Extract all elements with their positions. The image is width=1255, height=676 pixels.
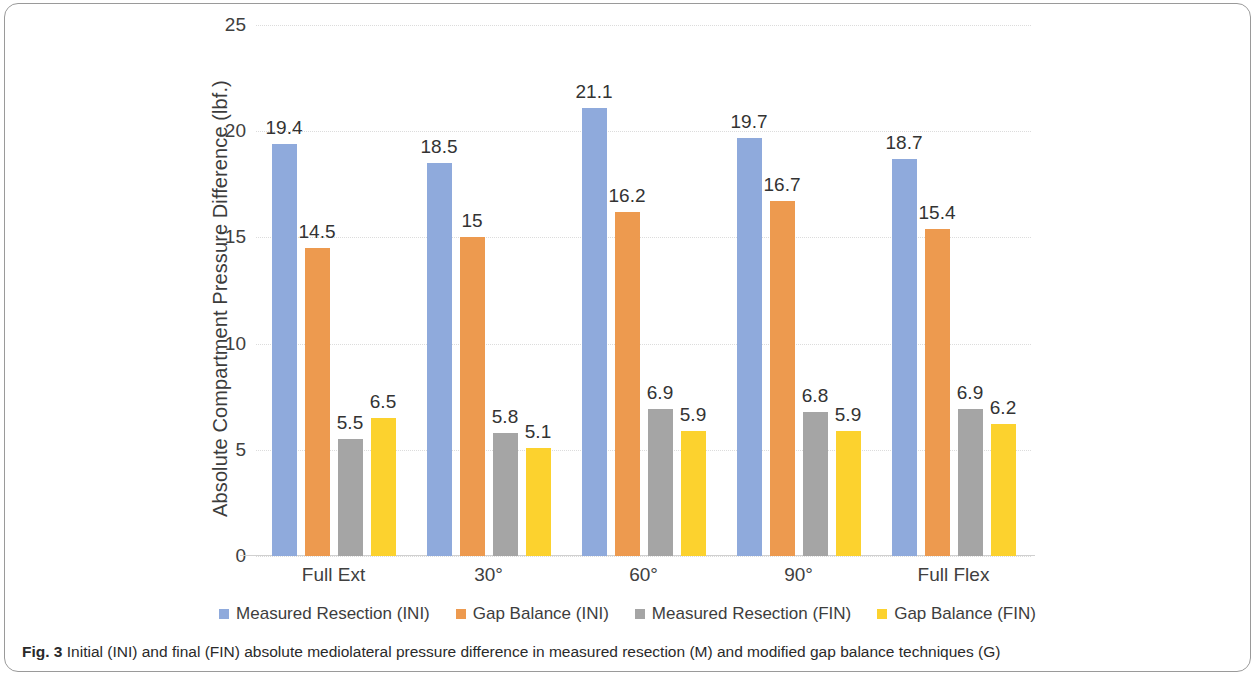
bar-group: 21.116.26.95.9: [566, 25, 721, 556]
y-tick-label: 25: [200, 14, 246, 36]
gridline: [256, 556, 1031, 557]
bar-value-label: 6.8: [802, 386, 828, 405]
bar[interactable]: [338, 439, 363, 556]
bar-item[interactable]: 6.5: [371, 25, 396, 556]
legend-swatch-icon: [635, 609, 645, 619]
bar-value-label: 18.7: [886, 133, 923, 152]
y-tick-label: 15: [200, 226, 246, 248]
bar-value-label: 19.4: [266, 118, 303, 137]
caption-label: Fig. 3: [22, 643, 62, 660]
bar-value-label: 6.9: [957, 383, 983, 402]
x-axis-tick-labels: Full Ext30°60°90°Full Flex: [256, 564, 1031, 586]
bar-item[interactable]: 5.9: [681, 25, 706, 556]
bar-item[interactable]: 18.5: [427, 25, 452, 556]
figure-container: Absolute Compartment Pressure Difference…: [0, 0, 1255, 676]
bar-item[interactable]: 16.2: [615, 25, 640, 556]
bar-value-label: 5.5: [337, 413, 363, 432]
legend-item[interactable]: Gap Balance (INI): [456, 604, 609, 624]
x-tick-label: Full Ext: [256, 564, 411, 586]
bar-groups: 19.414.55.56.518.5155.85.121.116.26.95.9…: [256, 25, 1031, 556]
legend-swatch-icon: [219, 609, 229, 619]
bar-item[interactable]: 21.1: [582, 25, 607, 556]
bar-group: 19.716.76.85.9: [721, 25, 876, 556]
bar-value-label: 6.5: [370, 392, 396, 411]
y-tick-label: 20: [200, 120, 246, 142]
legend-label: Measured Resection (FIN): [652, 604, 851, 624]
bar[interactable]: [737, 138, 762, 556]
bar-value-label: 15.4: [919, 203, 956, 222]
legend-item[interactable]: Measured Resection (INI): [219, 604, 430, 624]
bar[interactable]: [803, 412, 828, 556]
bar-item[interactable]: 18.7: [892, 25, 917, 556]
chart-legend: Measured Resection (INI)Gap Balance (INI…: [0, 604, 1255, 624]
bar[interactable]: [427, 163, 452, 556]
bar-value-label: 5.9: [680, 405, 706, 424]
bar[interactable]: [770, 201, 795, 556]
bar-group: 18.715.46.96.2: [876, 25, 1031, 556]
legend-swatch-icon: [877, 609, 887, 619]
bar[interactable]: [615, 212, 640, 556]
legend-item[interactable]: Gap Balance (FIN): [877, 604, 1036, 624]
bar-item[interactable]: 15.4: [925, 25, 950, 556]
bar[interactable]: [526, 448, 551, 556]
y-axis-tick-labels: 0510152025: [200, 0, 246, 580]
bar-item[interactable]: 19.7: [737, 25, 762, 556]
legend-label: Gap Balance (INI): [473, 604, 609, 624]
bar-chart: Absolute Compartment Pressure Difference…: [0, 0, 1255, 676]
x-tick-label: Full Flex: [876, 564, 1031, 586]
bar-item[interactable]: 5.9: [836, 25, 861, 556]
y-tick-label: 0: [200, 545, 246, 567]
caption-body: Initial (INI) and final (FIN) absolute m…: [67, 643, 1001, 660]
bar-value-label: 16.7: [764, 175, 801, 194]
bar-value-label: 16.2: [609, 186, 646, 205]
legend-label: Gap Balance (FIN): [894, 604, 1036, 624]
legend-item[interactable]: Measured Resection (FIN): [635, 604, 851, 624]
bar-value-label: 19.7: [731, 112, 768, 131]
bar[interactable]: [460, 237, 485, 556]
bar[interactable]: [582, 108, 607, 556]
bar-item[interactable]: 6.2: [991, 25, 1016, 556]
bar-item[interactable]: 6.9: [958, 25, 983, 556]
bar-group: 19.414.55.56.5: [256, 25, 411, 556]
bar[interactable]: [836, 431, 861, 556]
bar-item[interactable]: 5.8: [493, 25, 518, 556]
bar[interactable]: [371, 418, 396, 556]
bar-item[interactable]: 16.7: [770, 25, 795, 556]
bar-value-label: 5.9: [835, 405, 861, 424]
bar-value-label: 15: [461, 211, 482, 230]
bar-item[interactable]: 14.5: [305, 25, 330, 556]
y-tick-label: 5: [200, 439, 246, 461]
bar-item[interactable]: 5.1: [526, 25, 551, 556]
y-tick-label: 10: [200, 333, 246, 355]
bar[interactable]: [958, 409, 983, 556]
bar-value-label: 5.8: [492, 407, 518, 426]
bar[interactable]: [305, 248, 330, 556]
bar-item[interactable]: 5.5: [338, 25, 363, 556]
bar-group: 18.5155.85.1: [411, 25, 566, 556]
bar[interactable]: [991, 424, 1016, 556]
bar-item[interactable]: 6.9: [648, 25, 673, 556]
bar-item[interactable]: 15: [460, 25, 485, 556]
x-tick-label: 60°: [566, 564, 721, 586]
legend-label: Measured Resection (INI): [236, 604, 430, 624]
bar-value-label: 18.5: [421, 137, 458, 156]
bar-value-label: 21.1: [576, 82, 613, 101]
x-tick-label: 30°: [411, 564, 566, 586]
bar-value-label: 6.2: [990, 398, 1016, 417]
bar[interactable]: [925, 229, 950, 556]
bar[interactable]: [892, 159, 917, 556]
bar-item[interactable]: 19.4: [272, 25, 297, 556]
bar-value-label: 14.5: [299, 222, 336, 241]
plot-area: 19.414.55.56.518.5155.85.121.116.26.95.9…: [256, 25, 1031, 556]
bar[interactable]: [681, 431, 706, 556]
x-tick-label: 90°: [721, 564, 876, 586]
bar-value-label: 5.1: [525, 422, 551, 441]
figure-caption: Fig. 3 Initial (INI) and final (FIN) abs…: [22, 643, 1237, 661]
bar[interactable]: [493, 433, 518, 556]
bar-item[interactable]: 6.8: [803, 25, 828, 556]
bar-value-label: 6.9: [647, 383, 673, 402]
bar[interactable]: [272, 144, 297, 556]
legend-swatch-icon: [456, 609, 466, 619]
bar[interactable]: [648, 409, 673, 556]
